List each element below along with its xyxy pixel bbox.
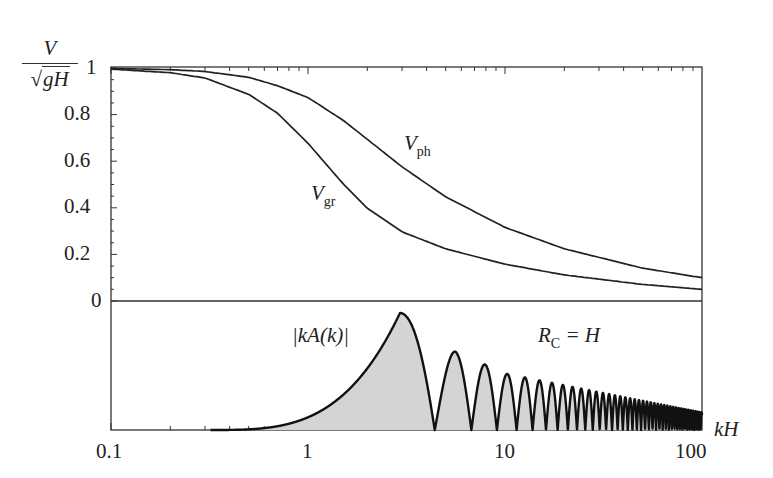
y-tick-label-0.8: 0.8 (64, 103, 90, 124)
rc-annotation: RC = H (538, 325, 600, 346)
y-label-denominator: √gH (20, 64, 80, 92)
v-gr-label: Vgr (311, 183, 336, 204)
radical-sign: √ (30, 67, 42, 91)
x-tick-label-0.1: 0.1 (96, 441, 122, 462)
chart-svg (0, 0, 773, 478)
x-tick-label-100: 100 (675, 441, 707, 462)
x-tick-label-10: 10 (494, 441, 515, 462)
y-tick-label-0: 0 (91, 290, 102, 311)
kA-label: |kA(k)| (292, 325, 349, 346)
y-axis-ticks (111, 68, 117, 301)
y-tick-label-0.6: 0.6 (64, 150, 90, 171)
x-axis-label: kH (714, 419, 739, 440)
v-ph-label: Vph (404, 133, 431, 154)
y-tick-label-0.2: 0.2 (64, 243, 90, 264)
x-tick-label-1: 1 (302, 441, 313, 462)
v-gr-curve (111, 69, 702, 289)
y-tick-label-0.4: 0.4 (64, 196, 90, 217)
y-tick-label-1: 1 (86, 57, 97, 78)
y-label-numerator: V (20, 36, 80, 63)
radicand: gH (42, 66, 70, 91)
v-ph-curve (111, 69, 702, 278)
y-axis-label: V √gH (20, 36, 80, 92)
